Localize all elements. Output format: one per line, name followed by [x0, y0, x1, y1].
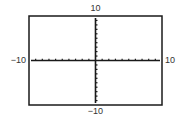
xmax-label: 10 [165, 55, 175, 65]
ymax-label: 10 [90, 3, 100, 13]
xmin-label: −10 [11, 55, 26, 65]
viewing-window: 10 −10 −10 10 [0, 0, 180, 120]
ymin-label: −10 [88, 106, 103, 116]
